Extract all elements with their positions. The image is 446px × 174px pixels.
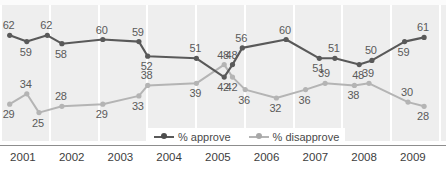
axis-year-2006: 2006: [254, 150, 280, 164]
data-point[interactable]: [36, 110, 41, 115]
value-label: 51: [189, 43, 201, 54]
legend-item-disapprove[interactable]: % disapprove: [249, 131, 340, 143]
legend-label-disapprove: % disapprove: [273, 131, 340, 143]
value-label: 56: [235, 33, 247, 44]
value-label: 60: [96, 25, 108, 36]
value-label: 29: [3, 109, 15, 120]
axis-year-2001: 2001: [10, 150, 36, 164]
data-point[interactable]: [240, 45, 245, 50]
data-point[interactable]: [59, 104, 64, 109]
data-point[interactable]: [136, 93, 141, 98]
data-point[interactable]: [24, 39, 29, 44]
axis-year-2002: 2002: [59, 150, 85, 164]
value-label: 59: [398, 47, 410, 58]
legend-label-approve: % approve: [178, 131, 231, 143]
value-label: 28: [417, 111, 429, 122]
value-label: 62: [40, 20, 52, 31]
data-point[interactable]: [303, 87, 308, 92]
value-label: 36: [299, 95, 311, 106]
axis-year-2007: 2007: [303, 150, 329, 164]
data-point[interactable]: [369, 58, 374, 63]
value-label: 34: [20, 79, 32, 90]
data-point[interactable]: [145, 83, 150, 88]
value-label: 38: [347, 90, 359, 101]
data-point[interactable]: [332, 56, 337, 61]
data-point[interactable]: [45, 33, 50, 38]
data-point[interactable]: [402, 39, 407, 44]
plot-area: 6259625860595251424856605151485059612934…: [0, 5, 446, 141]
value-label: 59: [132, 27, 144, 38]
value-label: 39: [318, 68, 330, 79]
value-label: 59: [20, 47, 32, 58]
data-point[interactable]: [194, 56, 199, 61]
value-label: 38: [141, 70, 153, 81]
data-point[interactable]: [274, 95, 279, 100]
data-point[interactable]: [100, 102, 105, 107]
data-point[interactable]: [352, 83, 357, 88]
data-point[interactable]: [100, 37, 105, 42]
data-point[interactable]: [59, 41, 64, 46]
series-canvas: [0, 5, 446, 141]
data-point[interactable]: [7, 102, 12, 107]
x-axis-labels: 200120022003200420052006200720082009: [0, 150, 446, 170]
value-label: 32: [269, 103, 281, 114]
data-point[interactable]: [317, 56, 322, 61]
axis-year-2005: 2005: [205, 150, 231, 164]
value-label: 50: [365, 45, 377, 56]
value-label: 28: [55, 91, 67, 102]
data-point[interactable]: [366, 81, 371, 86]
axis-year-2004: 2004: [156, 150, 182, 164]
data-point[interactable]: [24, 91, 29, 96]
value-label: 39: [362, 68, 374, 79]
axis-year-2009: 2009: [400, 150, 426, 164]
data-point[interactable]: [323, 81, 328, 86]
value-label: 36: [238, 95, 250, 106]
value-label: 30: [401, 87, 413, 98]
data-point[interactable]: [284, 37, 289, 42]
value-label: 48: [217, 50, 229, 61]
data-point[interactable]: [422, 35, 427, 40]
value-label: 62: [3, 20, 15, 31]
value-label: 51: [328, 43, 340, 54]
axis-year-2008: 2008: [351, 150, 377, 164]
data-point[interactable]: [222, 62, 227, 67]
data-point[interactable]: [230, 62, 235, 67]
value-label: 33: [132, 101, 144, 112]
value-label: 42: [226, 82, 238, 93]
legend-item-approve[interactable]: % approve: [154, 131, 231, 143]
data-point[interactable]: [422, 104, 427, 109]
value-label: 61: [417, 22, 429, 33]
approval-trend-line-chart: 6259625860595251424856605151485059612934…: [0, 0, 446, 174]
value-label: 60: [279, 25, 291, 36]
line-marker-icon: [249, 132, 269, 141]
value-label: 25: [32, 118, 44, 129]
data-point[interactable]: [405, 100, 410, 105]
data-point[interactable]: [136, 39, 141, 44]
x-axis-rule: [0, 145, 446, 146]
data-point[interactable]: [145, 54, 150, 59]
data-point[interactable]: [194, 81, 199, 86]
line-marker-icon: [154, 132, 174, 141]
data-point[interactable]: [230, 75, 235, 80]
value-label: 39: [189, 88, 201, 99]
chart-legend: % approve % disapprove: [148, 128, 345, 145]
value-label: 29: [96, 109, 108, 120]
axis-year-2003: 2003: [108, 150, 134, 164]
data-point[interactable]: [222, 75, 227, 80]
value-label: 58: [55, 49, 67, 60]
data-point[interactable]: [7, 33, 12, 38]
data-point[interactable]: [243, 87, 248, 92]
